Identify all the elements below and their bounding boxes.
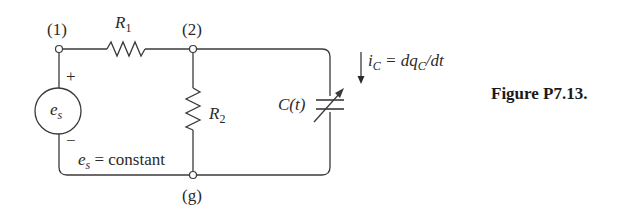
node-1-label: (1) xyxy=(47,20,67,39)
wire-top-right xyxy=(193,49,330,96)
resistor-r1-symbol xyxy=(107,42,145,56)
current-arrow-head-icon xyxy=(358,76,365,84)
node-g-terminal xyxy=(190,172,197,179)
resistor-r2-symbol xyxy=(186,88,200,130)
r1-label: R1 xyxy=(114,13,131,35)
capacitor-label: C(t) xyxy=(278,95,306,114)
circuit-diagram: (1) (2) (g) R1 R2 + − es es = constant C… xyxy=(0,0,641,215)
source-minus-sign: − xyxy=(66,131,76,150)
node-g-label: (g) xyxy=(182,186,202,205)
source-plus-sign: + xyxy=(66,67,76,86)
variable-capacitor-arrow xyxy=(314,93,340,122)
node-2-label: (2) xyxy=(182,20,202,39)
r2-label: R2 xyxy=(208,104,225,126)
source-constant-note: es = constant xyxy=(78,150,165,172)
source-symbol: es xyxy=(50,100,63,122)
node-2-terminal xyxy=(190,46,197,53)
figure-caption: Figure P7.13. xyxy=(491,84,587,103)
node-1-terminal xyxy=(56,46,63,53)
current-equation: iC = dqC/dt xyxy=(368,51,445,73)
